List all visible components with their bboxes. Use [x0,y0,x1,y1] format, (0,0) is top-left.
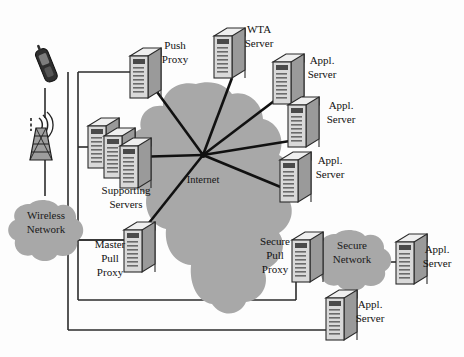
network-diagram: Internet Wireless Network Secure Network [0,0,464,357]
internet-hub-point [200,152,206,158]
appl-server-bottom-label-line1: Appl. [358,298,383,310]
appl-server-middle-label-line1: Appl. [329,99,354,111]
secure-cloud-label-line1: Secure [337,239,367,251]
appl-server-secure-label-line2: Server [423,257,452,269]
secure-pull-proxy-label-line2: Pull [266,249,284,261]
master-pull-proxy-server[interactable] [124,222,155,272]
internet-cloud [130,82,292,313]
push-proxy-label-line1: Push [164,39,186,51]
wta-server[interactable] [214,28,245,78]
appl-server-secure-label-line1: Appl. [425,243,450,255]
internet-cloud-label: Internet [187,174,220,185]
wireless-cloud-label-line2: Network [27,223,66,235]
secure-pull-proxy-label-line3: Proxy [262,263,289,275]
wireless-cloud-label-line1: Wireless [27,209,65,221]
appl-server-middle-label-line2: Server [327,113,356,125]
supporting-servers-label-line2: Servers [110,198,143,210]
master-pull-proxy-label-line1: Master [95,238,126,250]
wireless-network-cloud: Wireless Network [8,200,83,261]
appl-server-middle[interactable] [288,97,319,147]
secure-pull-proxy-label-line1: Secure [260,235,290,247]
wta-server-label-line2: Server [245,37,274,49]
secure-cloud-label-line2: Network [333,253,372,265]
appl-server-lower-label-line1: Appl. [318,154,343,166]
master-pull-proxy-label-line3: Proxy [97,266,124,278]
cell-tower-icon [30,112,53,160]
appl-server-lower-label-line2: Server [316,168,345,180]
appl-server-top[interactable] [273,54,304,104]
secure-network-cloud: Secure Network [314,230,391,291]
push-proxy-server[interactable] [130,48,161,98]
diagram-canvas: Internet Wireless Network Secure Network [0,0,464,357]
appl-server-lower[interactable] [280,152,311,202]
secure-pull-proxy-server[interactable] [292,232,323,282]
mobile-phone-icon [32,42,59,83]
wta-server-label-line1: WTA [247,23,271,35]
appl-server-bottom[interactable] [326,290,357,340]
master-pull-proxy-label-line2: Pull [101,252,119,264]
appl-server-top-label-line2: Server [308,68,337,80]
appl-server-bottom-label-line2: Server [356,312,385,324]
appl-server-top-label-line1: Appl. [310,54,335,66]
push-proxy-label-line2: Proxy [162,53,189,65]
supporting-servers-label-line1: Supporting [102,184,151,196]
